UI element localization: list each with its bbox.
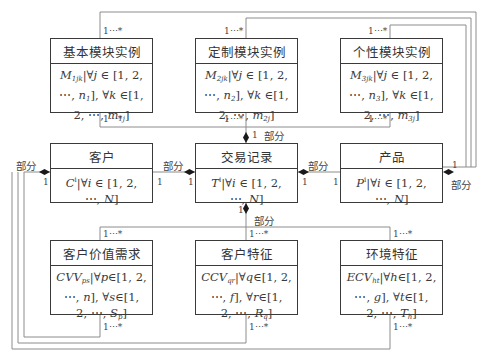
class-title: 定制模块实例 — [196, 39, 297, 64]
class-attributes: Pi|∀i ∈ [1, 2,⋯, N] — [341, 169, 442, 207]
mult-basic-bottom: 1⋯* — [103, 114, 122, 124]
mult-transaction-left: 1 — [188, 177, 194, 187]
class-title: 产品 — [341, 144, 442, 169]
class-basic-module: 基本模块实例 M1jk|∀j ∈ [1, 2,⋯, n1], ∀k ∈[1,2,… — [50, 38, 153, 113]
mult-ecv-bottom: 1⋯* — [393, 322, 412, 332]
mult-customer-right: 1 — [157, 177, 163, 187]
mult-product-left: 1 — [333, 177, 339, 187]
mult-transaction-right: 1 — [302, 177, 308, 187]
role-customer-left: 部分 — [16, 158, 36, 173]
mult-transaction-top: 1 — [252, 130, 258, 140]
role-transaction-product: 部分 — [308, 158, 328, 173]
mult-personal-bottom: 1⋯* — [368, 114, 387, 124]
class-customer: 客户 Ci|∀i ∈ [1, 2,⋯, N] — [50, 143, 153, 203]
class-attributes: M1jk|∀j ∈ [1, 2,⋯, n1], ∀k ∈[1,2, ⋯, m1j… — [51, 64, 152, 127]
diamond-transaction-left — [184, 169, 195, 175]
mult-basic-top: 1⋯* — [103, 26, 122, 36]
mult-cvv-bottom: 1⋯* — [103, 322, 122, 332]
class-customer-feature: 客户特征 CCVqr|∀q∈[1, 2,⋯, f], ∀r∈[1,2, ⋯, R… — [195, 240, 298, 315]
class-product: 产品 Pi|∀i ∈ [1, 2,⋯, N] — [340, 143, 443, 203]
mult-custom-bottom: 1⋯* — [224, 114, 243, 124]
role-customer-transaction: 部分 — [163, 158, 183, 173]
mult-ecv-top: 1⋯* — [393, 229, 412, 239]
class-customer-value-need: 客户价值需求 CVVps|∀p∈[1, 2,⋯, n], ∀s∈[1,2, ⋯,… — [50, 240, 153, 315]
class-title: 基本模块实例 — [51, 39, 152, 64]
class-title: 交易记录 — [196, 144, 297, 169]
class-transaction: 交易记录 Ti|∀i ∈ [1, 2,⋯, N] — [195, 143, 298, 203]
class-attributes: ECVht|∀h∈[1, 2,⋯, g], ∀t∈[1,2, ⋯, Th] — [341, 266, 442, 325]
mult-custom-top: 1⋯* — [224, 26, 243, 36]
diamond-transaction-top — [243, 132, 249, 143]
mult-ccv-bottom: 1⋯* — [249, 322, 268, 332]
class-attributes: Ci|∀i ∈ [1, 2,⋯, N] — [51, 169, 152, 207]
class-attributes: CCVqr|∀q∈[1, 2,⋯, f], ∀r∈[1,2, ⋯, Rq] — [196, 266, 297, 325]
class-title: 客户价值需求 — [51, 241, 152, 266]
mult-ccv-top: 1⋯* — [249, 229, 268, 239]
mult-customer-left: 1 — [43, 177, 49, 187]
class-attributes: M3jk|∀j ∈ [1, 2,⋯, n3], ∀k ∈[1,2, ⋯, m3j… — [341, 64, 442, 127]
class-attributes: CVVps|∀p∈[1, 2,⋯, n], ∀s∈[1,2, ⋯, Sp] — [51, 266, 152, 325]
role-transaction-top: 部分 — [264, 128, 284, 143]
role-transaction-bottom: 部分 — [254, 213, 274, 228]
class-attributes: Ti|∀i ∈ [1, 2,⋯, N] — [196, 169, 297, 207]
class-attributes: M2jk|∀j ∈ [1, 2,⋯, n2], ∀k ∈[1,2, ⋯, m2j… — [196, 64, 297, 127]
class-title: 环境特征 — [341, 241, 442, 266]
class-title: 个性模块实例 — [341, 39, 442, 64]
class-custom-module: 定制模块实例 M2jk|∀j ∈ [1, 2,⋯, n2], ∀k ∈[1,2,… — [195, 38, 298, 113]
role-product-right: 部分 — [451, 177, 471, 192]
class-personal-module: 个性模块实例 M3jk|∀j ∈ [1, 2,⋯, n3], ∀k ∈[1,2,… — [340, 38, 443, 113]
mult-personal-top: 1⋯* — [368, 26, 387, 36]
class-title: 客户特征 — [196, 241, 297, 266]
diamond-customer-left — [39, 169, 50, 175]
mult-cvv-top: 1⋯* — [103, 229, 122, 239]
mult-product-right: 1 — [452, 160, 458, 170]
mult-transaction-bottom: 1 — [238, 205, 244, 215]
class-title: 客户 — [51, 144, 152, 169]
class-environment-feature: 环境特征 ECVht|∀h∈[1, 2,⋯, g], ∀t∈[1,2, ⋯, T… — [340, 240, 443, 315]
